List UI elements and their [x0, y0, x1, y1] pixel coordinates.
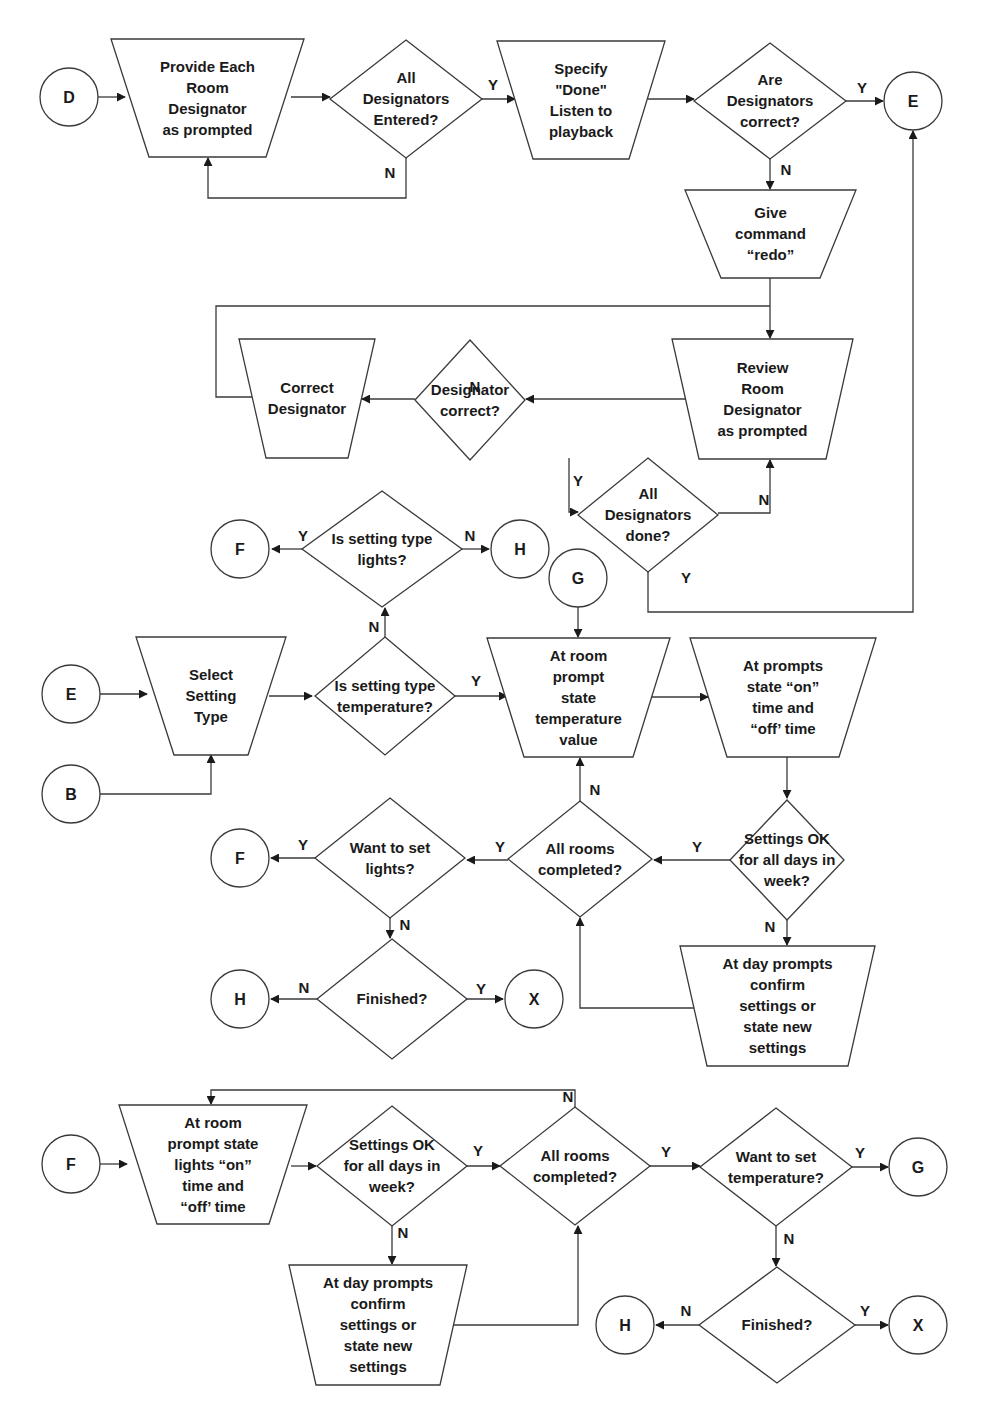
finished_mid-label: Finished?: [357, 990, 428, 1007]
connector-h-lights-q: H: [491, 520, 549, 578]
day-prompts-bottom-process: At day promptsconfirmsettings orstate ne…: [289, 1265, 467, 1385]
settings_ok_mid-line: week?: [763, 872, 810, 889]
day_prompts_mid-line: settings: [749, 1039, 807, 1056]
state_on_off-line: At prompts: [743, 657, 823, 674]
connector-letter: D: [63, 89, 75, 106]
specify-done-process: Specify"Done"Listen toplayback: [497, 41, 665, 159]
day_prompts_bottom-line: settings or: [340, 1316, 417, 1333]
diamond-shape: [302, 491, 462, 607]
are_correct-line: Designators: [727, 92, 814, 109]
branch-no-label: N: [759, 491, 770, 508]
settings-ok-bottom-decision: Settings OKfor all days inweek?: [317, 1106, 467, 1226]
branch-yes-label: Y: [661, 1143, 671, 1160]
connector-g-temp: G: [549, 549, 607, 607]
provide_designator-line: Designator: [168, 100, 247, 117]
all_rooms_mid-line: All rooms: [545, 840, 614, 857]
diamond-shape: [315, 798, 465, 918]
settings_ok_bottom-line: week?: [368, 1178, 415, 1195]
flow-arrow: [580, 918, 695, 1008]
diamond-shape: [700, 1108, 852, 1226]
trapezoid-shape: [239, 339, 375, 458]
lights_on_off-line: “off’ time: [180, 1198, 245, 1215]
branch-yes-label: Y: [857, 79, 867, 96]
all_done-line: Designators: [605, 506, 692, 523]
lights_on_off-line: prompt state: [168, 1135, 259, 1152]
connector-f-start-bottom: F: [42, 1135, 100, 1193]
all_done-line: All: [638, 485, 657, 502]
select_type-line: Setting: [186, 687, 237, 704]
connector-b-start: B: [42, 765, 100, 823]
review_designator-line: as prompted: [717, 422, 807, 439]
finished_bottom-line: Finished?: [742, 1316, 813, 1333]
day_prompts_bottom-line: state new: [344, 1337, 413, 1354]
branch-yes-label: Y: [860, 1302, 870, 1319]
want-lights-decision: Want to setlights?: [315, 798, 465, 918]
connector-letter: H: [234, 991, 246, 1008]
is-lights-decision: Is setting typelights?: [302, 491, 462, 607]
connector-letter: F: [235, 541, 245, 558]
day_prompts_bottom-line: confirm: [350, 1295, 405, 1312]
day_prompts_bottom-line: At day prompts: [323, 1274, 433, 1291]
settings-ok-mid-decision: Settings OKfor all days inweek?: [730, 800, 844, 920]
branch-no-label: N: [590, 781, 601, 798]
connector-h-finished-mid: H: [211, 970, 269, 1028]
finished_mid-line: Finished?: [357, 990, 428, 1007]
all_entered-line: All: [396, 69, 415, 86]
connector-x-finished-bottom: X: [889, 1296, 947, 1354]
all-done-decision: AllDesignatorsdone?: [578, 458, 718, 572]
flow-arrow: [452, 1226, 578, 1325]
connector-letter: E: [908, 93, 919, 110]
branch-no-label: N: [369, 618, 380, 635]
day_prompts_mid-line: state new: [743, 1018, 812, 1035]
is_temperature-line: Is setting type: [335, 677, 436, 694]
connector-letter: X: [529, 991, 540, 1008]
connector-f-want-lights: F: [211, 829, 269, 887]
day_prompts_mid-line: At day prompts: [722, 955, 832, 972]
provide_designator-line: Room: [186, 79, 229, 96]
specify_done-line: playback: [549, 123, 614, 140]
is_lights-line: lights?: [357, 551, 406, 568]
state_on_off-line: “off’ time: [750, 720, 815, 737]
review_designator-line: Review: [737, 359, 789, 376]
connector-d-start: D: [40, 68, 98, 126]
all-rooms-bottom-decision: All roomscompleted?: [500, 1107, 650, 1225]
select_type-line: Select: [189, 666, 233, 683]
are-correct-decision: AreDesignatorscorrect?: [694, 43, 846, 159]
state-temperature-process: At roompromptstatetemperaturevalue: [487, 638, 670, 757]
branch-yes-label: Y: [298, 836, 308, 853]
settings_ok_mid-line: for all days in: [739, 851, 836, 868]
all_rooms_bottom-line: All rooms: [540, 1147, 609, 1164]
settings_ok_bottom-line: for all days in: [344, 1157, 441, 1174]
finished-bottom-decision: Finished?: [699, 1267, 855, 1383]
give_redo-line: “redo”: [747, 246, 795, 263]
correct_designator-line: Correct: [280, 379, 333, 396]
lights_on_off-line: lights “on”: [174, 1156, 252, 1173]
state_temperature-line: temperature: [535, 710, 622, 727]
day_prompts_mid-line: settings or: [739, 997, 816, 1014]
finished_bottom-label: Finished?: [742, 1316, 813, 1333]
provide_designator-line: as prompted: [162, 121, 252, 138]
connector-e-start-mid: E: [42, 665, 100, 723]
designator-correct-decision: Designatorcorrect?: [415, 340, 525, 460]
settings_ok_mid-line: Settings OK: [744, 830, 830, 847]
state_on_off-line: state “on”: [747, 678, 820, 695]
branch-no-label: N: [781, 161, 792, 178]
are_correct-line: correct?: [740, 113, 800, 130]
connector-g-want-temp: G: [889, 1138, 947, 1196]
branch-yes-label: Y: [476, 980, 486, 997]
state_on_off-line: time and: [752, 699, 814, 716]
trapezoid-shape: [690, 638, 876, 757]
diamond-shape: [415, 340, 525, 460]
connector-h-finished-bottom: H: [596, 1296, 654, 1354]
branch-no-label: N: [681, 1302, 692, 1319]
all_entered-line: Designators: [363, 90, 450, 107]
specify_done-line: "Done": [555, 81, 607, 98]
day_prompts_bottom-line: settings: [349, 1358, 407, 1375]
lights_on_off-line: time and: [182, 1177, 244, 1194]
select_type-line: Type: [194, 708, 228, 725]
is_temperature-line: temperature?: [337, 698, 433, 715]
branch-yes-label: Y: [298, 527, 308, 544]
branch-no-label: N: [563, 1088, 574, 1105]
connector-letter: F: [66, 1156, 76, 1173]
branch-yes-label: Y: [855, 1144, 865, 1161]
